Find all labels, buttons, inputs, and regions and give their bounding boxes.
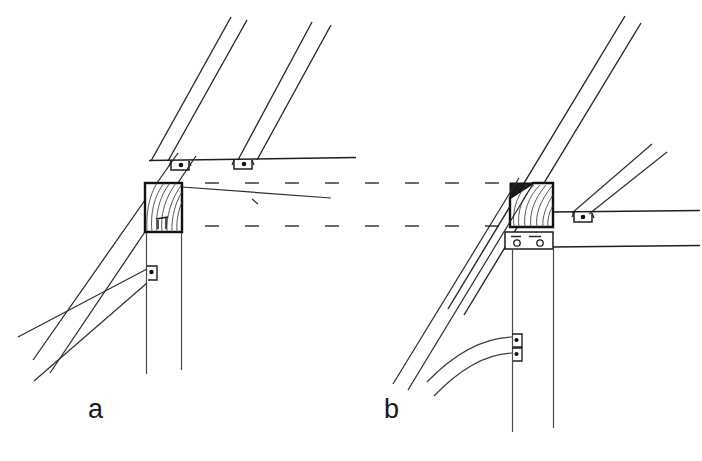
bolt-icon: [179, 163, 184, 168]
bracket-plate-b: [505, 232, 553, 249]
beam-cross-section-b: [510, 183, 553, 227]
figure-label-a: a: [88, 396, 103, 423]
bolt-icon: [514, 338, 518, 342]
bolt-hole-icon: [514, 240, 520, 246]
bracket-plate-outline: [505, 232, 553, 249]
figure-label-b: b: [384, 396, 399, 423]
bolt-icon: [242, 162, 247, 167]
bolt-icon: [149, 270, 153, 274]
figure-canvas: a b: [0, 0, 702, 461]
bolt-icon: [581, 215, 586, 220]
bolt-hole-icon: [537, 240, 543, 246]
beam-cross-section-a: [145, 183, 182, 232]
technical-drawing: [0, 0, 702, 461]
bolt-icon: [514, 352, 518, 356]
drawing-background: [0, 0, 702, 461]
